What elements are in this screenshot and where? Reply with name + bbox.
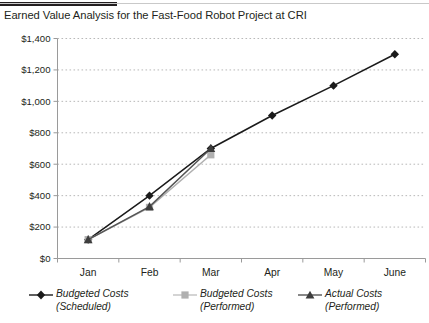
x-axis-tick-label: Mar xyxy=(202,267,220,278)
chart-title: Earned Value Analysis for the Fast-Food … xyxy=(4,9,307,21)
y-axis-tick-label: $800 xyxy=(29,127,50,138)
data-point-marker xyxy=(329,81,337,89)
y-axis-tick-label: $1,200 xyxy=(21,64,50,75)
data-point-marker xyxy=(391,50,399,58)
x-axis-tick-label: Apr xyxy=(264,267,281,278)
legend-item-budgeted-scheduled[interactable]: Budgeted Costs (Scheduled) xyxy=(28,288,129,313)
chart-legend: Budgeted Costs (Scheduled) Budgeted Cost… xyxy=(0,288,429,323)
legend-label-line2: (Scheduled) xyxy=(56,301,111,312)
chart-svg: $0$200$400$600$800$1,000$1,200$1,400 Jan… xyxy=(0,30,429,283)
legend-label-line1: Budgeted Costs xyxy=(200,288,273,299)
legend-item-actual-performed[interactable]: Actual Costs (Performed) xyxy=(297,288,382,313)
data-point-marker xyxy=(268,111,276,119)
x-axis-tick-label: May xyxy=(324,267,344,278)
legend-label-line2: (Performed) xyxy=(200,301,254,312)
legend-marker-diamond-icon xyxy=(28,289,54,301)
y-axis-tick-label: $400 xyxy=(29,190,50,201)
y-axis-tick-label: $600 xyxy=(29,159,50,170)
y-axis-tick-label: $1,400 xyxy=(21,33,50,44)
data-series-layer xyxy=(84,50,399,244)
legend-marker-square-icon xyxy=(172,289,198,301)
y-axis-ticks xyxy=(54,39,58,259)
legend-label-line1: Actual Costs xyxy=(325,288,382,299)
header-rule xyxy=(0,3,429,4)
legend-marker-triangle-icon xyxy=(297,289,323,301)
x-axis-tick-label: June xyxy=(384,267,407,278)
y-axis-tick-label: $0 xyxy=(40,253,51,264)
y-axis-tick-label: $200 xyxy=(29,221,50,232)
x-axis-tick-label: Jan xyxy=(80,267,97,278)
series-1 xyxy=(84,50,399,244)
data-point-marker xyxy=(207,151,214,158)
chart-plot-area: $0$200$400$600$800$1,000$1,200$1,400 Jan… xyxy=(0,30,429,283)
x-axis-ticks xyxy=(58,259,426,263)
legend-label-line2: (Performed) xyxy=(325,301,379,312)
legend-label-line1: Budgeted Costs xyxy=(56,288,129,299)
x-axis-labels: JanFebMarAprMayJune xyxy=(80,267,406,278)
y-axis-tick-label: $1,000 xyxy=(21,96,50,107)
x-axis-tick-label: Feb xyxy=(141,267,159,278)
y-axis-labels: $0$200$400$600$800$1,000$1,200$1,400 xyxy=(21,33,50,264)
legend-item-budgeted-performed[interactable]: Budgeted Costs (Performed) xyxy=(172,288,273,313)
